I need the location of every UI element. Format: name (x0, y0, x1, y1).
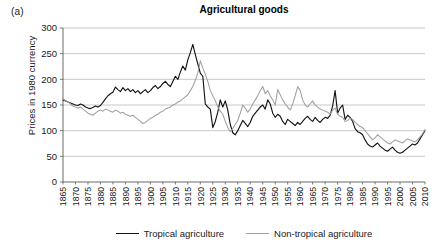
y-tick-label: 100 (41, 125, 57, 136)
x-tick-label: 1905 (158, 187, 168, 206)
data-series-layer (63, 44, 425, 153)
x-tick-label: 1970 (320, 187, 330, 206)
x-axis-ticks: 1865187018751880188518901895190019051910… (58, 182, 430, 206)
x-tick-label: 2005 (408, 187, 418, 206)
x-tick-label: 1930 (220, 187, 230, 206)
x-tick-label: 1965 (308, 187, 318, 206)
figure-panel-a: (a) Agricultural goods Prices in 1980 cu… (0, 0, 442, 248)
x-tick-label: 1895 (133, 187, 143, 206)
x-tick-label: 2000 (395, 187, 405, 206)
x-tick-label: 1870 (71, 187, 81, 206)
x-tick-label: 1945 (258, 187, 268, 206)
x-tick-label: 1890 (121, 187, 131, 206)
x-tick-label: 1915 (183, 187, 193, 206)
x-tick-label: 1975 (333, 187, 343, 206)
series-line (63, 61, 425, 144)
legend-label: Non-tropical agriculture (274, 228, 372, 239)
x-tick-label: 1995 (383, 187, 393, 206)
x-tick-label: 1920 (196, 187, 206, 206)
y-tick-label: 200 (41, 74, 57, 85)
x-tick-label: 1935 (233, 187, 243, 206)
line-swatch-black (116, 233, 139, 234)
x-tick-label: 1980 (345, 187, 355, 206)
y-tick-label: 50 (46, 151, 57, 162)
x-tick-label: 1960 (295, 187, 305, 206)
x-tick-label: 1925 (208, 187, 218, 206)
x-tick-label: 1985 (358, 187, 368, 206)
x-tick-label: 1875 (83, 187, 93, 206)
x-tick-label: 1880 (96, 187, 106, 206)
plot-area: 050100150200250300 186518701875188018851… (0, 0, 442, 248)
x-tick-label: 1910 (171, 187, 181, 206)
y-axis-ticks: 050100150200250300 (41, 22, 63, 187)
x-tick-label: 2010 (420, 187, 430, 206)
legend-entry: Tropical agriculture (116, 228, 224, 239)
line-swatch-gray (246, 233, 269, 234)
x-tick-label: 1900 (146, 187, 156, 206)
line-chart-svg: 050100150200250300 186518701875188018851… (0, 0, 442, 248)
legend-entry: Non-tropical agriculture (246, 228, 372, 239)
x-tick-label: 1990 (370, 187, 380, 206)
x-tick-label: 1865 (58, 187, 68, 206)
x-tick-label: 1955 (283, 187, 293, 206)
y-tick-label: 0 (52, 176, 57, 187)
x-tick-label: 1950 (270, 187, 280, 206)
y-tick-label: 150 (41, 99, 57, 110)
y-tick-label: 250 (41, 48, 57, 59)
y-tick-label: 300 (41, 22, 57, 33)
x-tick-label: 1885 (108, 187, 118, 206)
legend-label: Tropical agriculture (144, 228, 224, 239)
x-tick-label: 1940 (245, 187, 255, 206)
chart-legend: Tropical agricultureNon-tropical agricul… (63, 228, 425, 239)
